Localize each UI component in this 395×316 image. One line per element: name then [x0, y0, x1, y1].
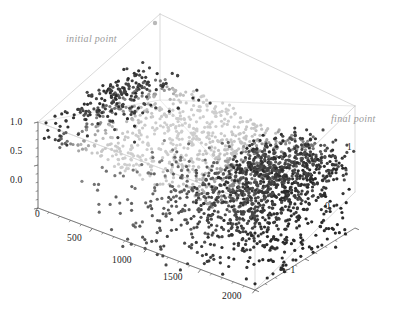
data-point: [271, 272, 274, 275]
data-point: [131, 91, 134, 94]
data-point: [227, 265, 230, 268]
data-point: [114, 195, 117, 198]
data-point: [211, 164, 214, 167]
data-point: [281, 135, 284, 138]
data-point: [97, 203, 100, 206]
data-point: [267, 185, 270, 188]
data-point: [254, 156, 257, 159]
data-point: [86, 91, 89, 94]
data-point: [317, 196, 320, 199]
data-point: [132, 154, 135, 157]
data-point: [301, 140, 304, 143]
data-point: [212, 153, 215, 156]
data-point: [204, 232, 207, 235]
data-point: [146, 143, 149, 146]
x-axis-minor-tick: [178, 261, 179, 263]
data-point: [202, 202, 205, 205]
data-point: [281, 168, 284, 171]
data-point: [289, 209, 292, 212]
data-point: [237, 126, 240, 129]
data-point: [171, 185, 174, 188]
x-axis-tick-label: 500: [67, 233, 82, 243]
data-point: [206, 233, 209, 236]
data-point: [211, 110, 214, 113]
data-point: [142, 70, 145, 73]
x-axis-major-tick: [198, 270, 201, 273]
data-point: [181, 210, 184, 213]
data-point: [152, 95, 155, 98]
data-point: [234, 134, 237, 137]
data-point: [205, 253, 208, 256]
data-point: [233, 113, 236, 116]
data-point: [272, 221, 275, 224]
data-point: [334, 168, 337, 171]
data-point: [214, 125, 217, 128]
data-point: [204, 143, 207, 146]
data-point: [83, 140, 86, 143]
data-point: [279, 233, 282, 236]
data-point: [197, 98, 200, 101]
data-point: [226, 112, 229, 115]
data-point: [168, 110, 171, 113]
data-point: [250, 177, 253, 180]
data-point: [206, 216, 209, 219]
data-point: [236, 226, 239, 229]
data-point: [214, 115, 217, 118]
data-point: [111, 125, 114, 128]
data-point: [139, 159, 142, 162]
data-point: [263, 225, 266, 228]
data-point: [234, 210, 237, 213]
data-point: [254, 189, 257, 192]
data-point: [183, 209, 186, 212]
data-point: [221, 102, 224, 105]
data-point: [217, 195, 220, 198]
data-point: [298, 177, 301, 180]
data-point: [338, 162, 341, 165]
data-point: [277, 178, 280, 181]
data-point: [271, 181, 274, 184]
data-point: [169, 124, 172, 127]
data-point: [179, 156, 182, 159]
data-point: [259, 232, 262, 235]
data-point: [226, 123, 229, 126]
data-point: [153, 172, 156, 175]
data-point: [243, 142, 246, 145]
data-point: [120, 152, 123, 155]
data-point: [191, 236, 194, 239]
data-point: [225, 107, 228, 110]
data-point: [93, 144, 96, 147]
data-point: [109, 91, 112, 94]
data-point: [122, 103, 125, 106]
x-axis-tick-label: 1000: [112, 255, 132, 265]
data-point: [138, 138, 141, 141]
data-point: [309, 150, 312, 153]
data-point: [217, 140, 220, 143]
data-point: [275, 224, 278, 227]
x-axis-minor-tick: [221, 278, 222, 280]
data-point: [192, 90, 195, 93]
data-point: [210, 214, 213, 217]
data-point: [317, 167, 320, 170]
data-point: [121, 96, 124, 99]
data-point: [84, 118, 87, 121]
data-point: [178, 111, 181, 114]
data-point: [126, 198, 129, 201]
data-point: [294, 140, 297, 143]
data-point: [156, 219, 159, 222]
data-point: [310, 220, 313, 223]
data-point: [268, 206, 271, 209]
data-point: [81, 148, 84, 151]
data-point: [191, 183, 194, 186]
data-point: [184, 90, 187, 93]
data-point: [244, 135, 247, 138]
x-axis-minor-tick: [123, 241, 124, 243]
data-point: [332, 178, 335, 181]
data-point: [266, 189, 269, 192]
data-point: [127, 151, 130, 154]
data-point: [225, 208, 228, 211]
data-point: [179, 143, 182, 146]
z-axis-tick-label: 1.0: [10, 117, 22, 127]
data-point: [293, 127, 296, 130]
data-point: [258, 189, 261, 192]
data-point: [340, 164, 343, 167]
